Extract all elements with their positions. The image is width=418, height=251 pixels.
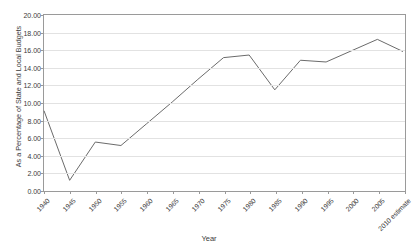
plot-area: 0.002.004.006.008.0010.0012.0014.0016.00…	[43, 14, 406, 192]
x-tick-mark	[44, 191, 45, 194]
y-tick-mark	[41, 138, 44, 139]
x-tick-mark	[405, 191, 406, 194]
y-tick-label: 8.00	[1, 117, 41, 124]
y-tick-mark	[41, 15, 44, 16]
y-tick-label: 20.00	[1, 12, 41, 19]
x-tick-mark	[96, 191, 97, 194]
x-tick-mark	[379, 191, 380, 194]
x-tick-mark	[147, 191, 148, 194]
gridline	[44, 173, 405, 174]
x-tick-mark	[302, 191, 303, 194]
y-tick-label: 12.00	[1, 82, 41, 89]
x-tick-mark	[328, 191, 329, 194]
x-tick-mark	[70, 191, 71, 194]
y-tick-label: 18.00	[1, 29, 41, 36]
y-tick-label: 10.00	[1, 100, 41, 107]
line-chart: As a Percentage of State and Local Budge…	[0, 0, 418, 251]
x-tick-mark	[225, 191, 226, 194]
y-tick-mark	[41, 33, 44, 34]
x-axis-title: Year	[0, 234, 418, 243]
y-tick-mark	[41, 156, 44, 157]
y-tick-mark	[41, 85, 44, 86]
x-tick-label: 2010 estimate	[407, 167, 418, 202]
y-tick-label: 6.00	[1, 135, 41, 142]
y-tick-label: 0.00	[1, 188, 41, 195]
gridline	[44, 121, 405, 122]
gridline	[44, 50, 405, 51]
x-tick-mark	[199, 191, 200, 194]
chart-title	[70, 0, 350, 3]
y-tick-label: 16.00	[1, 47, 41, 54]
x-tick-mark	[173, 191, 174, 194]
gridline	[44, 85, 405, 86]
y-tick-mark	[41, 121, 44, 122]
y-tick-label: 14.00	[1, 64, 41, 71]
gridline	[44, 156, 405, 157]
x-tick-mark	[121, 191, 122, 194]
x-tick-mark	[276, 191, 277, 194]
y-tick-label: 2.00	[1, 170, 41, 177]
gridline	[44, 33, 405, 34]
y-tick-label: 4.00	[1, 152, 41, 159]
gridline	[44, 103, 405, 104]
y-tick-mark	[41, 173, 44, 174]
x-tick-mark	[353, 191, 354, 194]
y-tick-mark	[41, 103, 44, 104]
x-tick-mark	[250, 191, 251, 194]
y-tick-mark	[41, 68, 44, 69]
y-tick-mark	[41, 50, 44, 51]
gridline	[44, 68, 405, 69]
gridline	[44, 138, 405, 139]
